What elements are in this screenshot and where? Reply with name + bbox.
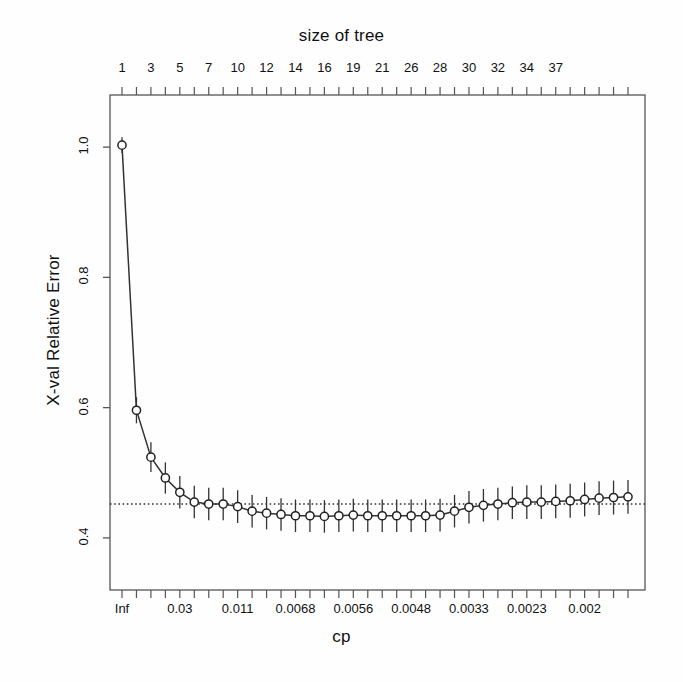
data-point [465, 503, 473, 511]
data-point [306, 512, 314, 520]
data-point [609, 493, 617, 501]
data-point [581, 495, 589, 503]
data-point [523, 498, 531, 506]
data-point [234, 503, 242, 511]
data-point [378, 512, 386, 520]
plot-area [0, 0, 683, 682]
data-point [494, 500, 502, 508]
data-point [320, 512, 328, 520]
data-point [335, 512, 343, 520]
data-point [364, 512, 372, 520]
data-point [479, 501, 487, 509]
data-line [122, 145, 628, 516]
data-point [147, 453, 155, 461]
data-point [508, 499, 516, 507]
data-point [349, 511, 357, 519]
data-point [132, 406, 140, 414]
data-point [595, 494, 603, 502]
data-point [407, 512, 415, 520]
chart-canvas: size of tree cp X-val Relative Error 135… [0, 0, 683, 682]
data-point [422, 512, 430, 520]
data-point [552, 497, 560, 505]
data-point [537, 498, 545, 506]
data-point [205, 500, 213, 508]
data-point [176, 488, 184, 496]
data-point [248, 507, 256, 515]
data-point [450, 507, 458, 515]
data-point [118, 141, 126, 149]
data-point [291, 512, 299, 520]
data-point [566, 497, 574, 505]
data-point [161, 474, 169, 482]
data-point [219, 500, 227, 508]
data-point [262, 509, 270, 517]
data-point [277, 510, 285, 518]
data-point [393, 512, 401, 520]
data-point [190, 498, 198, 506]
data-point [624, 493, 632, 501]
data-point [436, 511, 444, 519]
